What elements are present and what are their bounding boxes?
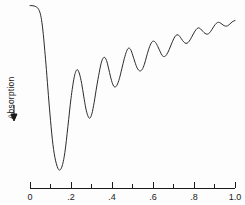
chart-figure: Absorption 0.2.4.6.81.0 (0, 0, 245, 205)
plot-curve-group (30, 6, 235, 170)
x-axis-tick-label: .6 (149, 192, 157, 202)
x-axis-tick-label: 0 (27, 192, 32, 202)
x-axis-ticks (30, 182, 235, 188)
x-axis-group: 0.2.4.6.81.0 (27, 182, 241, 202)
y-axis-label-group: Absorption (6, 77, 17, 121)
absorption-spectrum-chart: Absorption 0.2.4.6.81.0 (0, 0, 245, 205)
x-axis-tick-label: .4 (108, 192, 116, 202)
absorption-curve (30, 6, 235, 170)
x-axis-tick-label: .2 (67, 192, 75, 202)
x-axis-tick-labels: 0.2.4.6.81.0 (27, 192, 241, 202)
x-axis-tick-label: .8 (190, 192, 198, 202)
x-axis-tick-label: 1.0 (229, 192, 242, 202)
